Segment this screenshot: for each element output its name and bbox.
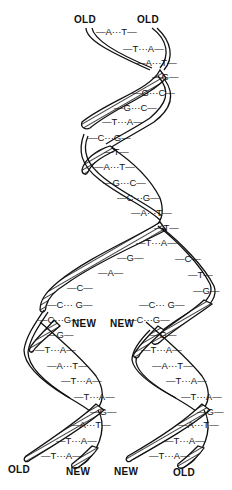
base-pair: —C··· G— [47, 300, 92, 310]
base-pair: —C···G— [88, 133, 131, 143]
base-pair: —T···A— [136, 238, 177, 248]
base-pair: —T···A— [149, 451, 190, 461]
base-pair: —T···A— [102, 117, 143, 127]
strand-label-old-bottom-1: OLD [8, 464, 30, 475]
strand-label-new-bottom-3: NEW [114, 466, 138, 477]
base-pair: —G— [152, 72, 178, 82]
base-pair: —T···A— [56, 436, 97, 446]
base-pair: —T···A— [41, 451, 82, 461]
base-pair: —A···T— [70, 420, 111, 430]
strand-label-old-top-right: OLD [137, 14, 159, 25]
base-pair: —G···C— [132, 88, 175, 98]
base-pair: —A···T— [178, 420, 219, 430]
base-pair: —T— [154, 223, 179, 233]
base-pair: —T— [104, 147, 129, 157]
base-pair: —G— [90, 407, 116, 417]
base-pair: —A···T— [94, 162, 135, 172]
base-pair: —C··· G— [139, 300, 184, 310]
base-pair: —T···A— [181, 392, 222, 402]
base-pair: —T···A— [61, 376, 102, 386]
base-pair: —G···C— [114, 103, 157, 113]
base-pair: —C— [175, 254, 201, 264]
base-pair: —T— [188, 270, 213, 280]
base-pair: —C— [67, 283, 93, 293]
base-pair: —A···T— [136, 58, 177, 68]
base-pair: —C···G— [127, 315, 170, 325]
base-pair: —G— [47, 330, 73, 340]
base-pair: —T···A— [164, 436, 205, 446]
base-pair: —A···T— [96, 27, 137, 37]
base-pair: —T···A— [35, 345, 76, 355]
strand-label-new-bottom-2: NEW [66, 466, 90, 477]
strand-label-old-bottom-4: OLD [173, 467, 195, 478]
base-pair: —T···A— [123, 44, 164, 54]
base-pair: —G— [193, 286, 219, 296]
strand-label-old-top-left: OLD [74, 14, 96, 25]
base-pair: —G— [197, 407, 223, 417]
base-pair: —T···A— [166, 376, 207, 386]
base-pair: —T···A— [141, 345, 182, 355]
base-pair: —A— [98, 268, 123, 278]
base-pair: —A···T— [47, 361, 88, 371]
base-pair: —C···G— [117, 193, 160, 203]
base-pair: —G···C— [103, 178, 146, 188]
base-pair: —T···A— [74, 392, 115, 402]
base-pair: —G— [150, 330, 176, 340]
base-pair: —G— [117, 253, 143, 263]
base-pair: —A···T— [152, 361, 193, 371]
base-pair: —A···T— [131, 208, 172, 218]
base-pair: —C···G— [38, 315, 81, 325]
